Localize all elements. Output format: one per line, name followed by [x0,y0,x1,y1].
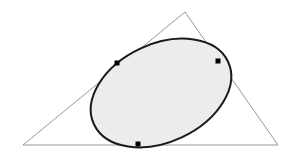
tangency-bottom-edge-marker [136,142,141,147]
geometry-diagram [0,0,297,155]
tangency-left-edge-marker [115,61,120,66]
tangency-right-edge-marker [216,59,221,64]
figure-container [0,0,297,155]
